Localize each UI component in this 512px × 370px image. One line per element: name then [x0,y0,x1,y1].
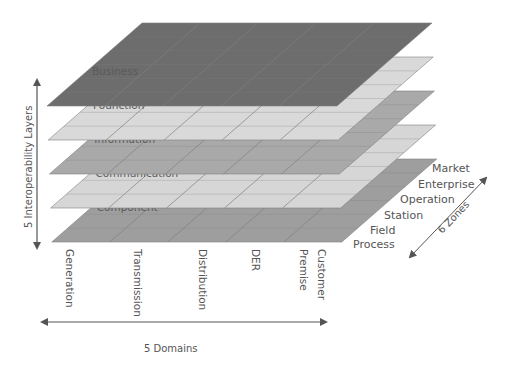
domain-label-generation: Generation [64,249,76,308]
layer-label: Business [92,65,138,77]
domain-label-customer-premise: Premise [298,249,310,291]
domain-label-transmission: Transmission [132,248,144,317]
zone-label-process: Process [353,238,395,251]
zone-label-market: Market [432,162,470,175]
domain-label-distribution: Distribution [197,249,209,310]
zone-label-enterprise: Enterprise [418,178,475,191]
zone-label-field: Field [370,224,395,237]
domains-axis-label: 5 Domains [144,343,198,354]
domain-label-customer-premise: Customer [316,249,328,301]
zone-label-operation: Operation [400,193,455,206]
domain-labels: GenerationTransmissionDistributionDERCus… [64,248,328,317]
domain-label-der: DER [250,249,262,271]
sgam-diagram: ComponentCommunicationInformationFouncti… [0,0,512,370]
zone-label-station: Station [384,209,423,222]
layers-axis-label: 5 Interoperability Layers [23,106,34,228]
layer-stack: ComponentCommunicationInformationFouncti… [47,23,437,242]
